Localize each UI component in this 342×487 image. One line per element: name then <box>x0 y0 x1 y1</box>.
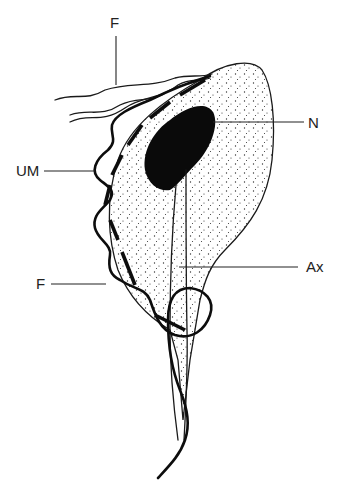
label-axostyle: Ax <box>306 258 324 275</box>
label-undulating-membrane: UM <box>16 162 39 179</box>
label-flagellum-lower: F <box>36 275 45 292</box>
label-nucleus: N <box>308 114 319 131</box>
label-flagella-top: F <box>110 14 119 31</box>
trichomonad-diagram: F UM N F Ax <box>0 0 342 487</box>
